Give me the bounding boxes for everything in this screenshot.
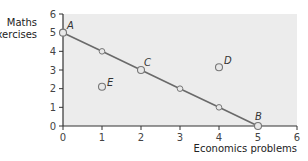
point-e: [99, 83, 106, 90]
x-tick-label: 5: [255, 132, 261, 143]
point-label-c: C: [144, 57, 151, 68]
x-tick-label: 6: [294, 132, 300, 143]
y-axis-title-line-2: exercises: [0, 29, 37, 40]
point-label-a: A: [66, 20, 74, 31]
y-tick-label: 6: [50, 9, 56, 20]
y-tick-label: 3: [50, 65, 56, 76]
x-tick-label: 1: [99, 132, 105, 143]
point-a: [60, 29, 67, 36]
x-tick-label: 0: [60, 132, 66, 143]
y-tick-label: 0: [50, 121, 56, 132]
line-marker: [216, 105, 222, 111]
point-label-b: B: [255, 111, 262, 122]
line-marker: [177, 86, 183, 92]
y-axis-title-line-1: Maths: [7, 17, 37, 28]
y-tick-label: 5: [50, 27, 56, 38]
x-tick-label: 3: [177, 132, 183, 143]
point-label-d: D: [224, 55, 232, 66]
y-tick-label: 4: [50, 46, 56, 57]
y-tick-label: 1: [50, 102, 56, 113]
point-label-e: E: [107, 77, 114, 88]
point-d: [216, 64, 223, 71]
x-tick-label: 4: [216, 132, 222, 143]
point-b: [255, 123, 262, 130]
x-axis-title: Economics problems: [194, 143, 297, 154]
plot-background: [63, 14, 297, 126]
line-marker: [99, 49, 105, 55]
y-tick-label: 2: [50, 83, 56, 94]
ppf-chart: 01234560123456 ABCDE Maths exercises Eco…: [0, 0, 308, 161]
x-tick-label: 2: [138, 132, 144, 143]
